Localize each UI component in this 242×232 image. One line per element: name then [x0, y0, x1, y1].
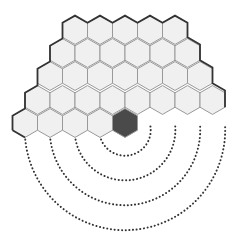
hex-cell	[88, 109, 113, 138]
hex-cell	[138, 62, 163, 91]
hex-cell	[175, 86, 200, 115]
hex-cell	[63, 109, 88, 138]
hex-board-diagram	[0, 0, 242, 232]
hex-cell	[125, 86, 150, 115]
hex-cell	[50, 86, 75, 115]
hex-cell	[75, 39, 100, 68]
hex-cell	[150, 39, 175, 68]
wraparound-arc	[25, 124, 225, 230]
hex-cell	[150, 86, 175, 115]
hex-cell	[100, 86, 125, 115]
hex-cell	[125, 39, 150, 68]
hex-cell	[100, 39, 125, 68]
wraparound-arcs	[25, 124, 225, 230]
hex-cell	[38, 109, 63, 138]
hex-cell	[163, 62, 188, 91]
hex-cell	[200, 86, 225, 115]
hex-cell	[113, 62, 138, 91]
hex-grid	[13, 16, 226, 138]
hex-cell	[88, 62, 113, 91]
hex-cell	[63, 62, 88, 91]
highlighted-hex-cell	[113, 109, 138, 138]
hex-cell	[75, 86, 100, 115]
